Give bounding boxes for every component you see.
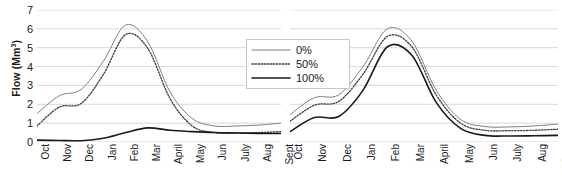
right-panel-x-axis-tick-labels: OctNovDecJanFebMarAprilMayJunJulyAugSept (290, 142, 558, 187)
right-panel-x-tick-nov: Nov (318, 144, 328, 162)
left-panel-svg (37, 10, 281, 142)
left-panel-x-tick-aug: Aug (263, 144, 273, 162)
left-panel-x-tick-dec: Dec (85, 144, 95, 162)
legend-item-0pct: 0% (251, 43, 344, 57)
left-panel-series-0pct (37, 24, 281, 126)
left-panel-x-tick-mar: Mar (152, 144, 162, 161)
y-axis-tick-7: 7 (17, 5, 33, 16)
left-panel-x-tick-april: April (174, 144, 184, 164)
left-panel-gridlines (37, 10, 281, 142)
right-panel-x-tick-dec: Dec (343, 144, 353, 162)
legend-label-0pct: 0% (296, 45, 312, 56)
left-panel-series-100pct (37, 128, 281, 141)
left-panel-x-tick-nov: Nov (63, 144, 73, 162)
right-panel-x-tick-july: July (513, 144, 523, 162)
legend-label-100pct: 100% (296, 73, 324, 84)
y-axis-tick-5: 5 (17, 42, 33, 53)
right-panel-x-tick-mar: Mar (416, 144, 426, 161)
y-axis-tick-2: 2 (17, 99, 33, 110)
y-axis-tick-0: 0 (17, 137, 33, 148)
right-panel-x-tick-jan: Jan (367, 144, 377, 160)
right-panel-x-tick-april: April (440, 144, 450, 164)
left-panel-x-tick-jun: Jun (218, 144, 228, 160)
y-axis-tick-3: 3 (17, 80, 33, 91)
legend-swatch-100pct (251, 72, 291, 84)
right-panel-x-tick-may: May (465, 144, 475, 163)
chart-legend: 0%50%100% (246, 39, 350, 89)
right-panel-x-tick-aug: Aug (538, 144, 548, 162)
left-panel-x-tick-july: July (241, 144, 251, 162)
left-panel-x-tick-may: May (196, 144, 206, 163)
y-axis-title-superscript: 3 (10, 43, 17, 47)
legend-item-50pct: 50% (251, 57, 344, 71)
left-panel-series-50pct (37, 33, 281, 133)
left-panel-x-tick-jan: Jan (108, 144, 118, 160)
right-panel-x-tick-jun: Jun (489, 144, 499, 160)
left-panel-x-axis-tick-labels: OctNovDecJanFebMarAprilMayJunJulyAugSept (37, 142, 281, 187)
legend-item-100pct: 100% (251, 71, 344, 85)
y-axis-tick-labels: 01234567 (17, 10, 33, 142)
y-axis-tick-6: 6 (17, 23, 33, 34)
y-axis-tick-4: 4 (17, 61, 33, 72)
right-panel-x-tick-oct: Oct (294, 144, 304, 160)
legend-swatch-50pct (251, 58, 291, 70)
left-panel-x-tick-oct: Oct (41, 144, 51, 160)
right-panel-x-tick-feb: Feb (391, 144, 401, 161)
left-panel: OctNovDecJanFebMarAprilMayJunJulyAugSept (37, 10, 281, 142)
left-panel-x-tick-feb: Feb (130, 144, 140, 161)
legend-swatch-0pct (251, 44, 291, 56)
left-panel-plot-area (37, 10, 281, 142)
chart-figure: Flow (Mm3) 01234567 OctNovDecJanFebMarAp… (0, 0, 562, 187)
y-axis-tick-1: 1 (17, 118, 33, 129)
legend-label-50pct: 50% (296, 59, 318, 70)
